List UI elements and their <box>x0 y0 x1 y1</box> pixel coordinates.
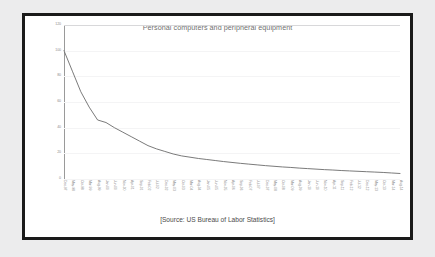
x-tick-label: Jul-02 <box>155 180 159 189</box>
plot-area: 020406080100120 <box>64 25 400 179</box>
y-tick-label: 120 <box>55 23 64 27</box>
x-tick-label: Oct-08 <box>281 180 285 190</box>
ppi-line-series <box>64 25 400 179</box>
x-tick-label: Mar-14 <box>390 180 394 190</box>
x-tick-label: Nov-05 <box>222 180 226 190</box>
x-tick-label: Mar-04 <box>188 180 192 190</box>
x-tick-label: Dec-07 <box>264 180 268 190</box>
x-tick-label: Jun-05 <box>213 180 217 190</box>
x-tick-label: Jan-10 <box>306 180 310 190</box>
x-tick-label: Oct-13 <box>381 180 385 190</box>
x-tick-label: May-98 <box>71 180 75 191</box>
x-tick-label: May-08 <box>272 180 276 191</box>
x-tick-label: Jan-00 <box>104 180 108 190</box>
x-tick-label: Dec-02 <box>163 180 167 190</box>
x-tick-label: Jul-07 <box>255 180 259 189</box>
x-tick-label: Nov-10 <box>323 180 327 190</box>
x-tick-label: Aug-09 <box>297 180 301 190</box>
x-tick-label: May-13 <box>373 180 377 191</box>
x-tick-label: Aug-14 <box>398 180 402 190</box>
chart-card: Personal computers and peripheral equipm… <box>22 13 413 240</box>
x-tick-label: Dec-12 <box>365 180 369 190</box>
x-tick-label: Sep-11 <box>339 180 343 190</box>
y-tick-label: 20 <box>57 152 64 156</box>
x-tick-label: Feb-12 <box>348 180 352 190</box>
x-tick-label: Jun-00 <box>113 180 117 190</box>
x-tick-label: Oct-03 <box>180 180 184 190</box>
x-tick-label: Jun-10 <box>314 180 318 190</box>
x-tick-label: Dec-97 <box>62 180 66 190</box>
x-tick-label: Aug-04 <box>197 180 201 190</box>
x-tick-label: Sep-06 <box>239 180 243 190</box>
x-tick-label: Nov-00 <box>121 180 125 190</box>
source-caption: [Source: US Bureau of Labor Statistics] <box>25 216 410 223</box>
x-tick-label: Apr-01 <box>129 180 133 190</box>
x-tick-label: Mar-09 <box>289 180 293 190</box>
x-tick-label: Apr-06 <box>230 180 234 190</box>
x-tick-label: Feb-07 <box>247 180 251 190</box>
x-tick-label: Jul-12 <box>356 180 360 189</box>
x-tick-label: Aug-99 <box>96 180 100 190</box>
y-tick-label: 80 <box>57 75 64 79</box>
y-tick-label: 60 <box>57 100 64 104</box>
chart-figure: Personal computers and peripheral equipm… <box>25 16 410 237</box>
x-tick-label: Oct-98 <box>79 180 83 190</box>
x-tick-label: Apr-11 <box>331 180 335 189</box>
x-tick-label: Jan-05 <box>205 180 209 190</box>
x-axis-ticks: Dec-97May-98Oct-98Mar-99Aug-99Jan-00Jun-… <box>64 180 400 216</box>
y-tick-label: 100 <box>55 49 64 53</box>
x-tick-label: May-03 <box>171 180 175 191</box>
x-tick-label: Mar-99 <box>87 180 91 190</box>
x-tick-label: Sep-01 <box>138 180 142 190</box>
x-tick-label: Feb-02 <box>146 180 150 190</box>
y-tick-label: 40 <box>57 126 64 130</box>
